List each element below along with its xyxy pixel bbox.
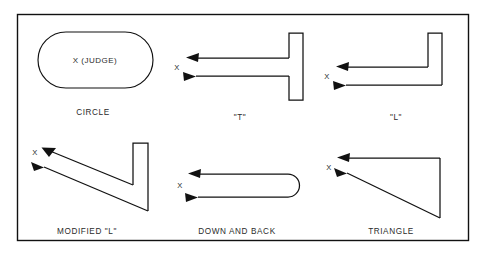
l-lower-arrowhead [333,81,346,90]
panel-triangle: X TRIANGLE [326,153,440,236]
down-back-start-marker-label: X [177,181,182,190]
t-crossbar-outline [289,33,303,100]
panel-label-l-shape: "L" [390,113,402,122]
panel-label-modified-l: MODIFIED "L" [57,227,117,236]
panel-label-circle: CIRCLE [76,108,110,117]
down-back-lower-arrowhead [185,193,198,202]
panel-label-down-and-back: DOWN AND BACK [198,227,275,236]
panel-label-t-shape: "T" [234,113,247,122]
triangle-hypotenuse [347,173,440,218]
panel-label-triangle: TRIANGLE [368,227,414,236]
triangle-top-arrowhead [337,153,350,162]
l-riser-outline [428,33,442,85]
panel-circle: X (JUDGE) CIRCLE [38,32,153,117]
l-start-marker-label: X [324,72,329,81]
panel-l-shape: X "L" [324,33,442,122]
down-back-rounded-end [288,174,300,197]
panel-modified-l: X MODIFIED "L" [31,143,148,236]
modified-l-start-marker-label: X [32,148,37,157]
modified-l-riser-outline [133,143,148,211]
t-upper-arrowhead [186,53,199,62]
circle-judge-marker-label: X (JUDGE) [73,56,118,65]
panel-t-shape: X "T" [174,33,303,122]
down-back-upper-arrowhead [188,169,201,178]
modified-l-lower-arrowhead [31,162,44,171]
panel-down-and-back: X DOWN AND BACK [177,169,299,236]
t-lower-arrowhead [183,72,196,81]
l-upper-arrowhead [336,62,349,71]
modified-l-upper-line [50,151,133,185]
triangle-start-marker-label: X [326,163,331,172]
triangle-hypotenuse-arrowhead [334,168,347,177]
movement-pattern-diagram: X (JUDGE) CIRCLE X "T" X " [0,0,486,253]
t-start-marker-label: X [174,63,179,72]
outer-frame [18,15,469,241]
figure-container: X (JUDGE) CIRCLE X "T" X " [0,0,486,253]
